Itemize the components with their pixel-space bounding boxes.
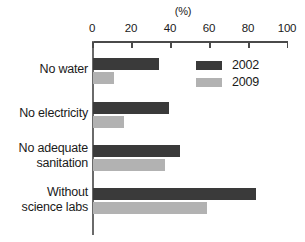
category-label-no-water: No water bbox=[40, 62, 88, 77]
legend-item-2002: 2002 bbox=[196, 57, 259, 74]
category-label-line: Without bbox=[22, 185, 88, 200]
x-axis-line bbox=[92, 41, 288, 43]
legend-label: 2002 bbox=[232, 58, 259, 73]
x-tick-label-row: 0 20 40 60 80 100 bbox=[0, 21, 305, 36]
x-tick-label: 100 bbox=[278, 21, 297, 35]
x-axis-tick bbox=[170, 42, 172, 48]
category-label-line: No adequate bbox=[19, 141, 88, 156]
category-label-line: No water bbox=[40, 62, 88, 77]
category-label-no-electricity: No electricity bbox=[19, 106, 88, 121]
bar-2009-no-electricity bbox=[93, 116, 124, 128]
category-label-without-science-labs: Without science labs bbox=[22, 185, 88, 215]
category-label-line: sanitation bbox=[19, 156, 88, 171]
category-label-no-adequate-sanitation: No adequate sanitation bbox=[19, 141, 88, 171]
x-axis-tick bbox=[131, 42, 133, 48]
x-axis-tick bbox=[248, 42, 250, 48]
bar-2002-without-science-labs bbox=[93, 188, 256, 200]
x-tick-label: 60 bbox=[203, 21, 215, 35]
x-axis-tick bbox=[209, 42, 211, 48]
legend-swatch-icon bbox=[196, 61, 222, 70]
axis-unit-label: (%) bbox=[160, 5, 206, 18]
category-label-line: science labs bbox=[22, 200, 88, 215]
x-axis-end-cap bbox=[287, 41, 289, 48]
legend-label: 2009 bbox=[232, 75, 259, 90]
x-tick-label: 20 bbox=[125, 21, 137, 35]
category-label-line: No electricity bbox=[19, 106, 88, 121]
x-axis-tick bbox=[92, 42, 94, 48]
bar-2009-no-water bbox=[93, 72, 114, 84]
bar-2002-no-water bbox=[93, 58, 159, 70]
bar-2002-no-adequate-sanitation bbox=[93, 145, 180, 157]
bar-2009-no-adequate-sanitation bbox=[93, 159, 165, 171]
x-tick-label: 0 bbox=[89, 21, 95, 35]
legend-swatch-icon bbox=[196, 78, 222, 87]
legend-item-2009: 2009 bbox=[196, 74, 259, 91]
x-tick-label: 40 bbox=[164, 21, 176, 35]
bar-2009-without-science-labs bbox=[93, 202, 207, 214]
x-tick-label: 80 bbox=[242, 21, 254, 35]
chart-legend: 2002 2009 bbox=[196, 57, 259, 91]
bar-chart: (%) 0 20 40 60 80 100 No water No electr… bbox=[0, 0, 305, 242]
bar-2002-no-electricity bbox=[93, 102, 169, 114]
